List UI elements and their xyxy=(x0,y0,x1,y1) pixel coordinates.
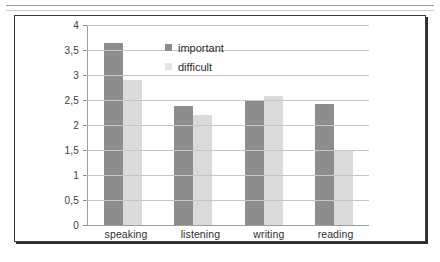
y-axis-tick xyxy=(83,225,87,226)
y-axis-tick-label: 0 xyxy=(73,220,79,231)
chart-plot-area xyxy=(87,25,369,225)
y-axis-tick xyxy=(83,150,87,151)
chart-legend: important difficult xyxy=(165,38,224,76)
y-axis-tick-label: 1,5 xyxy=(64,145,79,156)
y-axis-tick-label: 1 xyxy=(73,170,79,181)
y-axis-tick-label: 4 xyxy=(73,20,79,31)
page-rule-top xyxy=(6,5,434,6)
y-axis-tick xyxy=(83,100,87,101)
gridline xyxy=(87,75,369,76)
bar-difficult-speaking xyxy=(123,80,142,225)
y-axis-tick xyxy=(83,125,87,126)
y-axis-tick xyxy=(83,25,87,26)
legend-item-important: important xyxy=(165,38,224,57)
legend-label-difficult: difficult xyxy=(178,61,212,73)
gridline xyxy=(87,225,369,226)
y-axis-tick-label: 3 xyxy=(73,70,79,81)
bar-important-listening xyxy=(174,106,193,225)
gridline xyxy=(87,150,369,151)
x-axis-category-labels: speakinglisteningwritingreading xyxy=(88,228,370,240)
legend-item-difficult: difficult xyxy=(165,57,224,76)
gridline xyxy=(87,50,369,51)
y-axis-tick-label: 0,5 xyxy=(64,195,79,206)
bar-difficult-writing xyxy=(264,96,283,225)
legend-swatch-icon-difficult xyxy=(165,63,172,70)
x-axis-label-reading: reading xyxy=(318,228,354,240)
legend-swatch-icon-important xyxy=(165,44,172,51)
y-axis-tick xyxy=(83,200,87,201)
x-axis-label-writing: writing xyxy=(253,228,284,240)
chart-figure-frame: 00,511,522,533,54 speakinglisteningwriti… xyxy=(14,15,426,242)
bar-important-writing xyxy=(245,101,264,225)
y-axis-tick-labels: 00,511,522,533,54 xyxy=(43,25,79,225)
y-axis-tick-label: 2 xyxy=(73,120,79,131)
gridline xyxy=(87,175,369,176)
bar-important-reading xyxy=(315,104,334,225)
gridline xyxy=(87,25,369,26)
bar-difficult-listening xyxy=(193,115,212,225)
y-axis-tick-label: 3,5 xyxy=(64,45,79,56)
bar-difficult-reading xyxy=(334,150,353,225)
x-axis-label-listening: listening xyxy=(181,228,220,240)
gridline xyxy=(87,100,369,101)
gridline xyxy=(87,125,369,126)
y-axis-tick-label: 2,5 xyxy=(64,95,79,106)
bar-important-speaking xyxy=(104,43,123,226)
y-axis-tick xyxy=(83,75,87,76)
y-axis-tick xyxy=(83,50,87,51)
page-rule-top-secondary xyxy=(6,10,434,11)
y-axis-tick xyxy=(83,175,87,176)
x-axis-label-speaking: speaking xyxy=(105,228,148,240)
gridline xyxy=(87,200,369,201)
legend-label-important: important xyxy=(178,42,224,54)
chart-plot-wrapper: 00,511,522,533,54 speakinglisteningwriti… xyxy=(15,16,425,241)
